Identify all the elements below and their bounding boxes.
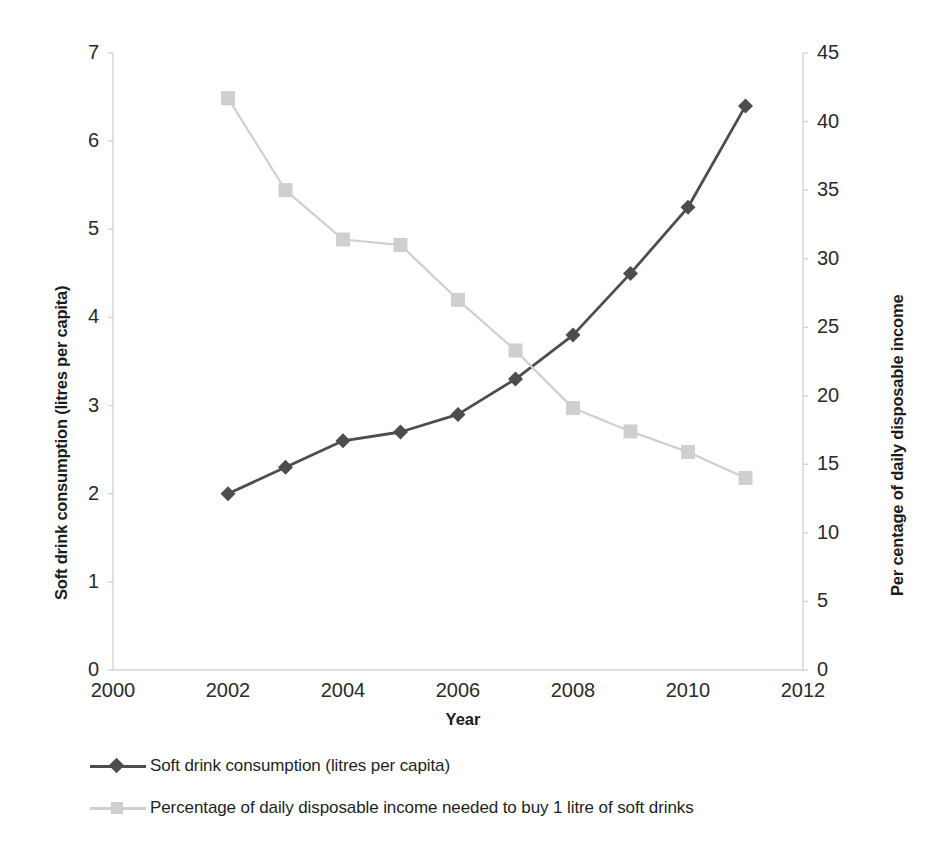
series-1: [221, 98, 754, 501]
data-point-marker: [221, 486, 236, 501]
legend-label: Percentage of daily disposable income ne…: [150, 798, 694, 818]
data-point-marker: [336, 233, 350, 247]
chart-legend: Soft drink consumption (litres per capit…: [90, 745, 890, 829]
legend-item[interactable]: Percentage of daily disposable income ne…: [90, 787, 890, 829]
data-point-marker: [739, 471, 753, 485]
series-2: [221, 91, 753, 485]
series-line: [228, 98, 746, 478]
legend-swatch-diamond-icon: [90, 756, 146, 776]
data-point-marker: [624, 424, 638, 438]
series-line: [228, 106, 746, 494]
data-point-marker: [336, 433, 351, 448]
legend-label: Soft drink consumption (litres per capit…: [150, 756, 450, 776]
data-point-marker: [566, 401, 580, 415]
data-point-marker: [279, 183, 293, 197]
data-point-marker: [451, 407, 466, 422]
data-point-marker: [278, 460, 293, 475]
data-point-marker: [681, 445, 695, 459]
legend-item[interactable]: Soft drink consumption (litres per capit…: [90, 745, 890, 787]
data-point-marker: [451, 293, 465, 307]
data-point-marker: [738, 98, 753, 113]
chart-container: Soft drink consumption (litres per capit…: [0, 0, 926, 860]
data-point-marker: [394, 238, 408, 252]
legend-marker-diamond-icon: [109, 758, 125, 774]
data-point-marker: [393, 425, 408, 440]
legend-swatch-square-icon: [90, 798, 146, 818]
legend-marker-square-icon: [111, 802, 123, 814]
data-point-marker: [509, 344, 523, 358]
plot-area: [0, 0, 926, 860]
data-point-marker: [221, 91, 235, 105]
